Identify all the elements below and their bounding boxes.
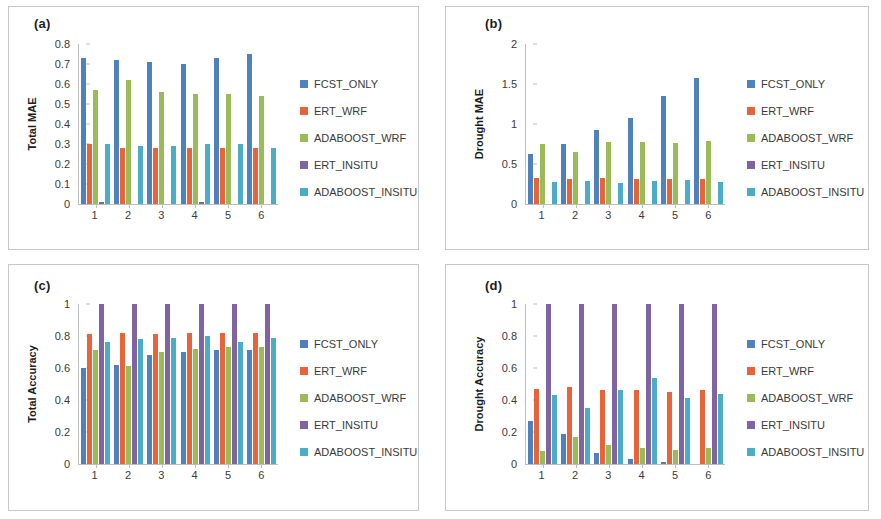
panel-d-bar-fcst_only-4	[628, 459, 633, 464]
panel-b-legend-item-adaboost_insitu: ADABOOST_INSITU	[747, 186, 864, 198]
panel-c-bar-ert_wrf-1	[87, 334, 92, 464]
panel-a-bar-ert_wrf-5	[220, 148, 225, 204]
panel-b-x-tick-mark	[675, 204, 676, 208]
panel-d-legend-item-fcst_only: FCST_ONLY	[747, 338, 864, 350]
panel-a-y-tick-label: 0.8	[55, 38, 70, 50]
panel-a-x-tick-mark	[129, 204, 130, 208]
panel-d-x-ticks: 123456	[525, 469, 725, 481]
panel-c-x-tick-mark	[261, 464, 262, 468]
panel-b-bar-adaboost_insitu-6	[718, 182, 723, 204]
panel-c-bar-ert_wrf-6	[253, 333, 258, 464]
panel-d-bar-ert_insitu-1	[546, 304, 551, 464]
legend-swatch-icon	[747, 340, 755, 348]
panel-a-group-2	[112, 44, 145, 204]
panel-d-bar-adaboost_insitu-2	[585, 408, 590, 464]
panel-c-legend-item-adaboost_insitu: ADABOOST_INSITU	[300, 446, 417, 458]
panel-b-bar-adaboost_wrf-2	[573, 152, 578, 204]
legend-label: ERT_WRF	[761, 365, 814, 377]
legend-label: FCST_ONLY	[761, 338, 825, 350]
panel-b-chart: Drought MAE 00.511.52 123456	[475, 44, 725, 204]
panel-a-bar-adaboost_wrf-6	[259, 96, 264, 204]
legend-swatch-icon	[300, 134, 308, 142]
panel-b-x-tick-label: 6	[692, 209, 725, 221]
panel-c-bar-ert_insitu-4	[199, 304, 204, 464]
panel-c-y-tick-label: 1	[64, 298, 70, 310]
panel-b-bar-ert_wrf-4	[634, 179, 639, 204]
panel-c-legend: FCST_ONLYERT_WRFADABOOST_WRFERT_INSITUAD…	[300, 338, 417, 458]
panel-b-y-axis-title: Drought MAE	[471, 44, 487, 204]
panel-d-bar-adaboost_insitu-5	[685, 398, 690, 464]
panel-c-bar-ert_insitu-5	[232, 304, 237, 464]
panel-b-x-tick-mark	[609, 204, 610, 208]
panel-d-group-1	[526, 304, 559, 464]
legend-label: ERT_WRF	[761, 105, 814, 117]
legend-swatch-icon	[300, 161, 308, 169]
panel-a-plot-area	[78, 44, 278, 205]
panel-c-bar-adaboost_insitu-3	[171, 338, 176, 464]
panel-c-bar-ert_insitu-2	[132, 304, 137, 464]
panel-d-x-tick-label: 3	[592, 469, 625, 481]
panel-a-x-tick-mark	[96, 204, 97, 208]
panel-c-y-tick-label: 0.6	[55, 362, 70, 374]
panel-b-group-2	[559, 44, 592, 204]
panel-c-bar-ert_wrf-4	[187, 333, 192, 464]
panel-a-x-tick-mark	[228, 204, 229, 208]
panel-a-y-ticks: 00.10.20.30.40.50.60.70.8	[40, 44, 74, 204]
panel-d-y-tick-label: 0.2	[502, 426, 517, 438]
panel-a-y-tick-label: 0.4	[55, 118, 70, 130]
panel-b-x-tick-label: 5	[658, 209, 691, 221]
legend-swatch-icon	[747, 367, 755, 375]
panel-d-legend: FCST_ONLYERT_WRFADABOOST_WRFERT_INSITUAD…	[747, 338, 864, 458]
panel-b-bar-ert_wrf-2	[567, 179, 572, 204]
panel-a-group-4	[179, 44, 212, 204]
panel-b-bar-fcst_only-3	[594, 130, 599, 204]
legend-swatch-icon	[747, 421, 755, 429]
panel-b-legend-item-ert_wrf: ERT_WRF	[747, 105, 864, 117]
panel-a-bar-adaboost_wrf-1	[93, 90, 98, 204]
panel-c-bar-fcst_only-5	[214, 350, 219, 464]
panel-c-x-ticks: 123456	[78, 469, 278, 481]
panel-d-x-tick-label: 5	[658, 469, 691, 481]
panel-b-x-ticks: 123456	[525, 209, 725, 221]
panel-d-bar-ert_insitu-2	[579, 304, 584, 464]
panel-a-bar-ert_wrf-6	[253, 148, 258, 204]
legend-swatch-icon	[300, 80, 308, 88]
panel-c-x-tick-label: 4	[178, 469, 211, 481]
panel-a-y-tick-label: 0.3	[55, 138, 70, 150]
panel-a-x-ticks: 123456	[78, 209, 278, 221]
panel-a-y-tick-label: 0.2	[55, 158, 70, 170]
panel-d-x-tick-mark	[576, 464, 577, 468]
panel-d-bar-ert_wrf-3	[600, 390, 605, 464]
panel-b-bar-ert_wrf-3	[600, 178, 605, 204]
panel-c-bar-groups	[79, 304, 278, 464]
panel-d-y-ticks: 00.20.40.60.81	[487, 304, 521, 464]
panel-b-bar-adaboost_wrf-4	[640, 142, 645, 204]
panel-d-group-4	[626, 304, 659, 464]
panel-c-group-2	[112, 304, 145, 464]
panel-d-x-tick-mark	[609, 464, 610, 468]
panel-b-bar-adaboost_insitu-5	[685, 180, 690, 204]
panel-c-x-tick-mark	[162, 464, 163, 468]
panel-a-x-tick-label: 6	[245, 209, 278, 221]
panel-c-group-4	[179, 304, 212, 464]
panel-c-label: (c)	[34, 278, 51, 293]
panel-b: (b) Drought MAE 00.511.52 123456 FCST_ON…	[441, 0, 881, 260]
panel-b-bar-fcst_only-5	[661, 96, 666, 204]
panel-a-group-6	[245, 44, 278, 204]
panel-d-bar-fcst_only-3	[594, 453, 599, 464]
panel-d-group-6	[692, 304, 725, 464]
panel-c-bar-adaboost_insitu-6	[271, 338, 276, 464]
panel-d-bar-adaboost_wrf-2	[573, 437, 578, 464]
panel-b-y-tick-label: 0	[511, 198, 517, 210]
panel-d-bar-adaboost_insitu-3	[618, 390, 623, 464]
panel-a-x-tick-mark	[162, 204, 163, 208]
panel-c-bar-ert_insitu-6	[265, 304, 270, 464]
panel-d-bar-adaboost_insitu-6	[718, 394, 723, 464]
panel-b-x-tick-mark	[543, 204, 544, 208]
panel-a-chart: Total MAE 00.10.20.30.40.50.60.70.8 1234…	[28, 44, 278, 204]
panel-c-bar-fcst_only-2	[114, 365, 119, 464]
panel-c-y-tick-label: 0	[64, 458, 70, 470]
panel-a-legend-item-ert_insitu: ERT_INSITU	[300, 159, 417, 171]
panel-c-bar-ert_wrf-3	[153, 334, 158, 464]
legend-label: FCST_ONLY	[761, 78, 825, 90]
